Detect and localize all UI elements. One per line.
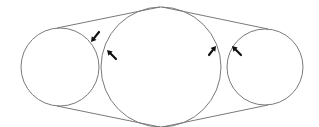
arrow-middle-left-icon xyxy=(107,50,116,59)
tangent-line xyxy=(162,7,268,29)
circles-group xyxy=(21,7,303,127)
arrows-group xyxy=(91,32,241,59)
tangent-line xyxy=(162,105,268,127)
circle-middle xyxy=(101,7,221,127)
tangent-line xyxy=(57,106,160,127)
tangent-lines-group xyxy=(57,7,268,127)
arrow-left-circle-icon xyxy=(91,32,99,42)
arrow-middle-right-icon xyxy=(209,46,216,55)
circle-left xyxy=(21,28,99,106)
tangent-line xyxy=(57,7,160,28)
circle-right xyxy=(227,29,303,105)
arrow-right-circle-icon xyxy=(232,46,241,55)
diagram-canvas xyxy=(0,0,319,127)
belt-diagram xyxy=(0,0,319,127)
